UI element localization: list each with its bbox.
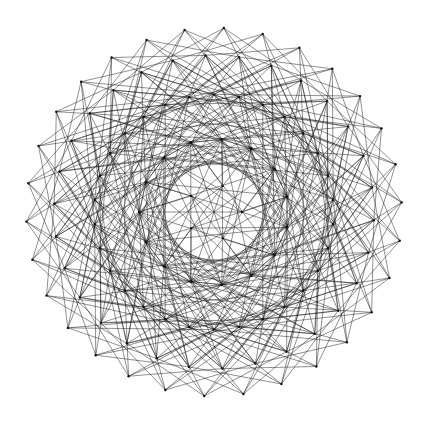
graph-node bbox=[331, 68, 333, 70]
graph-node bbox=[250, 275, 252, 277]
graph-node bbox=[127, 375, 129, 377]
graph-node bbox=[274, 254, 276, 256]
graph-node bbox=[262, 318, 264, 320]
graph-node bbox=[238, 56, 240, 58]
graph-node bbox=[126, 342, 128, 344]
graph-node bbox=[380, 127, 382, 129]
graph-node bbox=[95, 354, 97, 356]
graph-node bbox=[347, 125, 349, 127]
graph-node bbox=[163, 265, 165, 267]
graph-node bbox=[124, 290, 126, 292]
graph-node bbox=[204, 54, 206, 56]
graph-node bbox=[300, 79, 302, 81]
graph-node bbox=[315, 365, 317, 367]
graph-node bbox=[298, 47, 300, 49]
graph-node bbox=[183, 29, 185, 31]
graph-node bbox=[140, 71, 142, 73]
graph-node bbox=[302, 132, 304, 134]
graph-node bbox=[221, 367, 223, 369]
graph-node bbox=[45, 294, 47, 296]
graph-node bbox=[346, 341, 348, 343]
graph-node bbox=[31, 259, 33, 261]
graph-node bbox=[156, 357, 158, 359]
graph-node bbox=[371, 311, 373, 313]
graph-node bbox=[100, 322, 102, 324]
graph-node bbox=[286, 226, 288, 228]
graph-node bbox=[213, 93, 215, 95]
graph-node bbox=[221, 138, 223, 140]
graph-node bbox=[67, 327, 69, 329]
graph-node bbox=[109, 152, 111, 154]
graph-node bbox=[55, 235, 57, 237]
graph-node bbox=[238, 326, 240, 328]
graph-node bbox=[164, 389, 166, 391]
graph-node bbox=[188, 96, 190, 98]
graph-node bbox=[70, 140, 72, 142]
graph-node bbox=[89, 112, 91, 114]
graph-node bbox=[241, 211, 243, 213]
graph-node bbox=[222, 185, 224, 187]
graph-node bbox=[63, 267, 65, 269]
graph-node bbox=[99, 247, 101, 249]
graph-node bbox=[332, 223, 334, 225]
graph-node bbox=[270, 64, 272, 66]
graph-node bbox=[337, 310, 339, 312]
graph-node bbox=[190, 227, 192, 229]
graph-node bbox=[138, 211, 140, 213]
graph-node bbox=[94, 199, 96, 201]
graph-node bbox=[326, 100, 328, 102]
graph-node bbox=[27, 182, 29, 184]
graph-node bbox=[262, 103, 264, 105]
graph-node bbox=[355, 282, 357, 284]
graph-node bbox=[79, 296, 81, 298]
graph-node bbox=[317, 152, 319, 154]
graph-node bbox=[401, 201, 403, 203]
graph-node bbox=[190, 195, 192, 197]
graph-node bbox=[142, 306, 144, 308]
graph-node bbox=[222, 237, 224, 239]
graph-node bbox=[223, 27, 225, 29]
graph-node bbox=[163, 156, 165, 158]
graph-node bbox=[388, 277, 390, 279]
graph-node bbox=[112, 89, 114, 91]
graph-node bbox=[164, 103, 166, 105]
graph-node bbox=[371, 186, 373, 188]
graph-node bbox=[109, 270, 111, 272]
graph-node bbox=[285, 351, 287, 353]
graph-node bbox=[399, 240, 401, 242]
graph-node bbox=[190, 281, 192, 283]
graph-node bbox=[144, 181, 146, 183]
graph-node bbox=[124, 132, 126, 134]
graph-node bbox=[238, 96, 240, 98]
graph-node bbox=[314, 333, 316, 335]
graph-node bbox=[262, 33, 264, 35]
graph-node bbox=[25, 220, 27, 222]
graph-node bbox=[367, 251, 369, 253]
graph-node bbox=[373, 219, 375, 221]
graph-node bbox=[250, 147, 252, 149]
graph-node bbox=[53, 203, 55, 205]
graph-node bbox=[242, 393, 244, 395]
graph-node bbox=[317, 270, 319, 272]
graph-node bbox=[58, 170, 60, 172]
graph-node bbox=[144, 241, 146, 243]
graph-node bbox=[332, 199, 334, 201]
graph-node bbox=[55, 111, 57, 113]
graph-node bbox=[142, 116, 144, 118]
graph-node bbox=[302, 290, 304, 292]
graph-node bbox=[280, 383, 282, 385]
graph-diagram bbox=[0, 0, 432, 426]
graph-node bbox=[94, 223, 96, 225]
graph-node bbox=[145, 39, 147, 41]
graph-node bbox=[327, 175, 329, 177]
graph-node bbox=[362, 155, 364, 157]
graph-node bbox=[221, 284, 223, 286]
graph-node bbox=[190, 141, 192, 143]
graph-node bbox=[286, 196, 288, 198]
graph-node bbox=[188, 326, 190, 328]
graph-node bbox=[188, 366, 190, 368]
graph-node bbox=[164, 318, 166, 320]
graph-node bbox=[203, 395, 205, 397]
graph-node bbox=[394, 163, 396, 165]
graph-node bbox=[213, 328, 215, 330]
